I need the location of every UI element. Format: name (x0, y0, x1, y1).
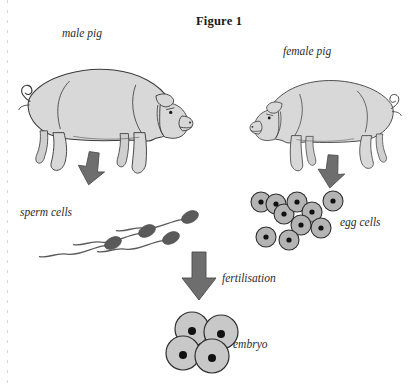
label-sperm-cells: sperm cells (20, 206, 72, 218)
egg-cell-group (251, 191, 343, 250)
male-pig-illustration (19, 69, 193, 173)
embryo-cell-group (166, 312, 238, 373)
arrow-male-to-sperm (76, 150, 107, 186)
label-egg-cells: egg cells (340, 216, 381, 228)
figure-canvas: Figure 1 (0, 0, 418, 387)
label-fertilisation: fertilisation (222, 272, 276, 284)
sperm-cell (117, 195, 201, 254)
embryo-cell (195, 339, 229, 373)
female-pig-illustration (250, 81, 401, 171)
egg-cell (311, 218, 331, 238)
egg-cell (323, 191, 343, 211)
diagram-drawing-layer (0, 0, 418, 387)
label-embryo: embryo (233, 338, 268, 350)
arrow-female-to-egg (317, 154, 346, 189)
label-female-pig: female pig (283, 45, 331, 57)
label-male-pig: male pig (62, 27, 102, 39)
arrow-fertilisation (182, 252, 216, 300)
egg-cell (256, 227, 276, 247)
egg-cell (279, 230, 299, 250)
